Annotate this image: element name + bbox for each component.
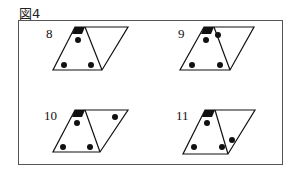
dot-marker — [203, 37, 209, 43]
dot-marker — [204, 120, 210, 126]
panel-11: 11 — [176, 108, 255, 154]
dot-marker — [189, 62, 195, 68]
dot-marker — [219, 144, 225, 150]
dot-marker — [215, 32, 221, 38]
dot-marker — [61, 62, 67, 68]
panel-10: 10 — [44, 108, 128, 152]
panel-label: 8 — [46, 26, 53, 41]
dot-marker — [60, 144, 66, 150]
panel-8: 8 — [46, 26, 128, 70]
diagram-canvas: 8 9 10 11 — [0, 0, 298, 172]
dot-marker — [112, 114, 118, 120]
panel-label: 10 — [44, 108, 57, 123]
dot-marker — [87, 144, 93, 150]
dot-marker — [217, 62, 223, 68]
panel-label: 11 — [176, 108, 189, 123]
panel-label: 9 — [178, 26, 185, 41]
panel-9: 9 — [178, 26, 254, 70]
dot-marker — [229, 137, 235, 143]
dot-marker — [75, 37, 81, 43]
dot-marker — [74, 120, 80, 126]
dot-marker — [88, 62, 94, 68]
dot-marker — [191, 144, 197, 150]
